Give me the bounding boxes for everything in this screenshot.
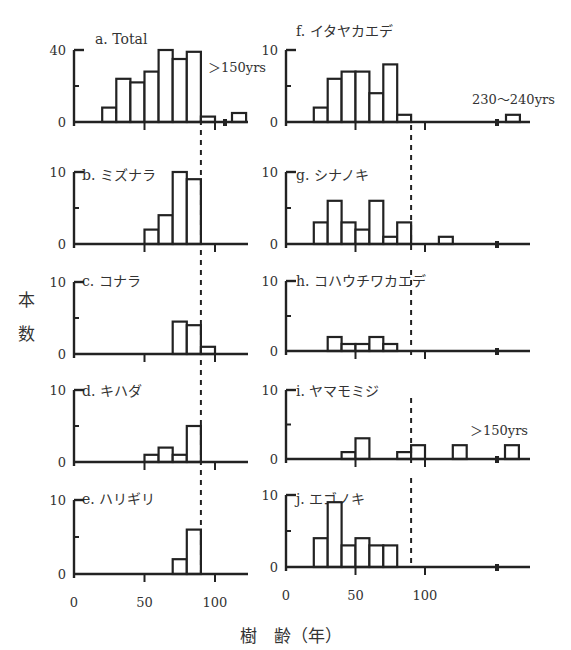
age-histogram-figure: a. Total040＞150yrsb. ミズナラ010c. コナラ010d. … bbox=[0, 0, 571, 650]
y-tick-label: 10 bbox=[261, 488, 278, 503]
axis-break-icon bbox=[495, 241, 499, 248]
x-tick-label: 0 bbox=[282, 588, 290, 603]
histogram-bar bbox=[369, 337, 383, 351]
y-tick-label: 0 bbox=[270, 115, 278, 130]
histogram-bar bbox=[328, 337, 342, 351]
axis-break-icon bbox=[495, 456, 499, 463]
histogram-bar bbox=[397, 222, 411, 244]
tail-label: ＞150yrs bbox=[208, 60, 266, 75]
histogram-bar bbox=[145, 230, 159, 244]
y-tick-label: 10 bbox=[49, 165, 66, 180]
panel-title-e: e. ハリギリ bbox=[82, 491, 155, 507]
y-tick-label: 0 bbox=[58, 567, 66, 582]
histogram-bar-tail bbox=[505, 445, 519, 459]
histogram-bar bbox=[411, 445, 425, 459]
panel-title-b: b. ミズナラ bbox=[82, 167, 156, 183]
x-tick-label: 100 bbox=[413, 588, 438, 603]
histogram-bar bbox=[159, 50, 173, 122]
histogram-bar bbox=[328, 502, 342, 567]
y-tick-label: 10 bbox=[261, 274, 278, 289]
panel-title-i: i. ヤマモミジ bbox=[296, 383, 379, 399]
histogram-bar bbox=[383, 545, 397, 567]
histogram-bar bbox=[187, 426, 201, 462]
y-tick-label: 0 bbox=[58, 455, 66, 470]
panel-d: d. キハダ010 bbox=[49, 383, 248, 470]
histogram-bar bbox=[187, 325, 201, 354]
y-axis-label-char-2: 数 bbox=[16, 317, 36, 351]
y-tick-label: 40 bbox=[49, 43, 66, 58]
tail-label: 230〜240yrs bbox=[472, 92, 555, 107]
panel-title-f: f. イタヤカエデ bbox=[296, 23, 393, 39]
panel-f: f. イタヤカエデ010230〜240yrs bbox=[261, 23, 554, 130]
y-tick-label: 10 bbox=[49, 383, 66, 398]
y-tick-label: 0 bbox=[270, 237, 278, 252]
histogram-bar bbox=[328, 79, 342, 122]
x-tick-label: 100 bbox=[203, 595, 228, 610]
histogram-bar bbox=[342, 72, 356, 122]
tail-label: ＞150yrs bbox=[470, 423, 528, 438]
panel-title-g: g. シナノキ bbox=[296, 167, 369, 183]
panel-c: c. コナラ010 bbox=[49, 273, 248, 362]
histogram-bar bbox=[369, 93, 383, 122]
histogram-bar bbox=[187, 52, 201, 122]
y-tick-label: 0 bbox=[58, 115, 66, 130]
histogram-bar bbox=[159, 448, 173, 462]
y-axis-label-char-1: 本 bbox=[16, 283, 36, 317]
y-tick-label: 10 bbox=[261, 383, 278, 398]
x-tick-label: 50 bbox=[136, 595, 153, 610]
y-tick-label: 10 bbox=[49, 493, 66, 508]
histogram-bar bbox=[314, 108, 328, 122]
histogram-bar bbox=[159, 215, 173, 244]
panel-i: i. ヤマモミジ010＞150yrs bbox=[261, 383, 530, 467]
panel-a: a. Total040＞150yrs bbox=[49, 31, 266, 130]
panel-title-h: h. コハウチワカエデ bbox=[296, 273, 426, 289]
histogram-bar bbox=[187, 530, 201, 574]
panel-e: e. ハリギリ010050100 bbox=[49, 491, 248, 610]
panel-j: j. エゴノキ010050100 bbox=[261, 488, 530, 603]
panel-title-a: a. Total bbox=[95, 31, 148, 47]
histogram-bar bbox=[342, 222, 356, 244]
histogram-bar bbox=[356, 538, 370, 567]
y-tick-label: 0 bbox=[270, 344, 278, 359]
y-tick-label: 10 bbox=[49, 275, 66, 290]
histogram-bar bbox=[102, 108, 116, 122]
histogram-bar-tail bbox=[232, 113, 246, 122]
histogram-bar bbox=[356, 72, 370, 122]
x-tick-label: 0 bbox=[70, 595, 78, 610]
y-tick-label: 0 bbox=[58, 347, 66, 362]
histogram-bar bbox=[145, 72, 159, 122]
y-tick-label: 0 bbox=[270, 452, 278, 467]
histogram-bar bbox=[328, 201, 342, 244]
histogram-bar bbox=[314, 222, 328, 244]
histogram-bar bbox=[369, 201, 383, 244]
histogram-bar bbox=[356, 230, 370, 244]
histogram-bar bbox=[187, 179, 201, 244]
axis-break-icon bbox=[223, 119, 227, 126]
y-tick-label: 0 bbox=[270, 560, 278, 575]
x-tick-label: 50 bbox=[347, 588, 364, 603]
histogram-bar bbox=[369, 545, 383, 567]
histogram-bar bbox=[173, 322, 187, 354]
histogram-bar bbox=[116, 79, 130, 122]
y-tick-label: 10 bbox=[261, 165, 278, 180]
y-tick-label: 0 bbox=[58, 237, 66, 252]
panel-title-c: c. コナラ bbox=[82, 273, 141, 289]
histogram-bar bbox=[173, 559, 187, 574]
histogram-bar bbox=[173, 59, 187, 122]
histogram-bar bbox=[130, 82, 144, 122]
x-axis-label: 樹 齢（年） bbox=[240, 622, 342, 647]
histogram-bar bbox=[356, 438, 370, 459]
y-tick-label: 10 bbox=[261, 43, 278, 58]
panel-h: h. コハウチワカエデ010 bbox=[261, 273, 530, 359]
histogram-bar bbox=[383, 64, 397, 122]
y-axis-label: 本 数 bbox=[16, 283, 36, 351]
histogram-bar bbox=[173, 172, 187, 244]
panel-title-d: d. キハダ bbox=[82, 383, 142, 399]
panel-b: b. ミズナラ010 bbox=[49, 165, 248, 252]
axis-break-icon bbox=[495, 564, 499, 571]
panel-g: g. シナノキ010 bbox=[261, 165, 530, 252]
axis-break-icon bbox=[495, 348, 499, 355]
histogram-bar bbox=[342, 545, 356, 567]
axis-break-icon bbox=[495, 119, 499, 126]
histogram-bar bbox=[314, 538, 328, 567]
